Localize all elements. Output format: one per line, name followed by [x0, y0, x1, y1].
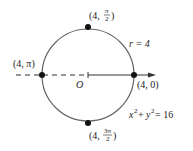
arrow-head-icon	[148, 73, 156, 78]
radius-label: r = 4	[129, 38, 150, 49]
svg-text:): )	[111, 10, 114, 22]
equation-label: x 2 + y 2 = 16	[128, 107, 173, 120]
svg-text:π: π	[105, 7, 109, 15]
svg-text:): )	[113, 130, 116, 142]
svg-text:(4,: (4,	[89, 130, 100, 142]
svg-text:2: 2	[106, 135, 110, 143]
point-bottom	[85, 120, 91, 126]
label-right: (4, 0)	[137, 79, 159, 91]
point-right	[131, 72, 137, 78]
point-top	[85, 24, 91, 30]
svg-text:+: +	[138, 109, 144, 120]
label-bottom: (4, 3π 2 )	[89, 127, 116, 143]
label-left: (4, π)	[13, 58, 35, 70]
svg-text:(4,: (4,	[89, 10, 100, 22]
svg-text:3π: 3π	[104, 127, 112, 135]
point-left	[39, 72, 45, 78]
label-top: (4, π 2 )	[89, 7, 114, 23]
origin-label: O	[76, 79, 83, 90]
svg-text:2: 2	[105, 15, 109, 23]
svg-text:= 16: = 16	[155, 109, 173, 120]
polar-diagram: O r = 4 (4, π 2 ) (4, π) (4, 0) x 2 + y …	[0, 0, 193, 151]
